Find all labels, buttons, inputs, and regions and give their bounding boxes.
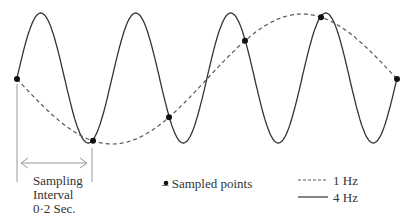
interval-arrow [21,158,87,168]
signal-4hz-solid [17,13,397,143]
sampling-interval-line1: Sampling [33,174,103,188]
sampled-point [14,76,20,82]
sampling-interval-line2: Interval [33,188,103,202]
sampled-point [318,14,324,20]
sampling-interval-line3: 0·2 Sec. [33,202,103,216]
sampled-point [90,138,96,144]
sampled-point [166,114,172,120]
sampling-interval-label: Sampling Interval 0·2 Sec. [33,174,103,216]
legend-1hz-label: 1 Hz [333,174,358,188]
sampled-point [394,76,400,82]
legend-sampled-points-label: – Sampled points [162,177,252,191]
sampled-point [242,38,248,44]
legend-4hz-label: 4 Hz [333,191,358,205]
